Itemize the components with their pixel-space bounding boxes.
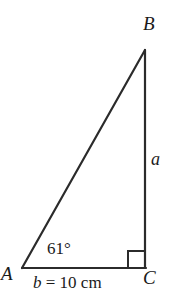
right-angle-marker-icon xyxy=(128,251,145,268)
side-label-b-value: = 10 cm xyxy=(42,273,102,292)
triangle-figure: A B C a 61° b = 10 cm xyxy=(0,0,171,302)
angle-label-at-a: 61° xyxy=(47,240,71,257)
vertex-label-b: B xyxy=(143,14,155,33)
side-label-b-variable: b xyxy=(33,273,42,292)
vertex-label-a: A xyxy=(1,264,13,283)
vertex-label-c: C xyxy=(143,268,156,287)
side-label-b: b = 10 cm xyxy=(33,274,102,291)
side-label-a: a xyxy=(151,150,160,168)
triangle-drawing xyxy=(0,0,171,302)
hypotenuse-ab-line xyxy=(22,50,145,268)
